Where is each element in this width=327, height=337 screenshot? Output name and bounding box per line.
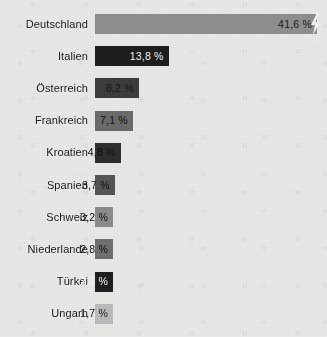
bar: 8,2 %: [95, 78, 139, 98]
bar-track: 2,8 %: [95, 239, 327, 259]
bar-track: 8,2 %: [95, 78, 327, 98]
bar: 2,8 %: [95, 239, 113, 259]
bar-category-label: Spanien: [0, 179, 95, 192]
bar-value-label: 7,1 %: [100, 115, 128, 126]
bar: 3,2 %: [95, 207, 113, 227]
bar-value-label: 41,6 %: [278, 19, 312, 30]
bar-track: 13,8 %: [95, 46, 327, 66]
bar-category-label: Italien: [0, 50, 95, 63]
bar-value-label: 3,2 %: [80, 212, 108, 223]
bar: 2,2 %: [95, 272, 113, 292]
bar-value-label: 8,2 %: [106, 83, 134, 94]
bar-value-label: 13,8 %: [130, 51, 164, 62]
bar-value-label: 2,2 %: [80, 276, 108, 287]
bar-category-label: Kroatien: [0, 146, 95, 159]
bar-row: Deutschland41,6 %: [0, 14, 327, 34]
bar-track: 1,7 %: [95, 304, 327, 324]
bar: 3,7 %: [95, 175, 115, 195]
bar: 1,7 %: [95, 304, 113, 324]
bar-row: Schweiz3,2 %: [0, 207, 327, 227]
bar-row: Ungarn1,7 %: [0, 304, 327, 324]
bar-row: Niederlande2,8 %: [0, 239, 327, 259]
bar-track: 7,1 %: [95, 111, 327, 131]
bar-row: Frankreich7,1 %: [0, 111, 327, 131]
bar-category-label: Deutschland: [0, 18, 95, 31]
bar: 41,6 %: [95, 14, 317, 34]
bar-value-label: 2,8 %: [80, 244, 108, 255]
bar-category-label: Frankreich: [0, 114, 95, 127]
bar: 7,1 %: [95, 111, 133, 131]
bar-row: Spanien3,7 %: [0, 175, 327, 195]
bar-row: Italien13,8 %: [0, 46, 327, 66]
bar-value-label: 1,7 %: [80, 308, 108, 319]
bar: 13,8 %: [95, 46, 169, 66]
horizontal-bar-chart: Deutschland41,6 %Italien13,8 %Österreich…: [0, 0, 327, 337]
bar-track: 41,6 %: [95, 14, 327, 34]
bar-row: Türkei2,2 %: [0, 272, 327, 292]
bar-row: Kroatien4,8 %: [0, 143, 327, 163]
bar-track: 4,8 %: [95, 143, 327, 163]
bar-track: 3,7 %: [95, 175, 327, 195]
bar-category-label: Österreich: [0, 82, 95, 95]
bar-row: Österreich8,2 %: [0, 78, 327, 98]
bar-track: 2,2 %: [95, 272, 327, 292]
bar-track: 3,2 %: [95, 207, 327, 227]
bar-value-label: 4,8 %: [88, 147, 116, 158]
lightning-bolt-icon: [310, 13, 321, 35]
bar: 4,8 %: [95, 143, 121, 163]
bar-value-label: 3,7 %: [82, 180, 110, 191]
